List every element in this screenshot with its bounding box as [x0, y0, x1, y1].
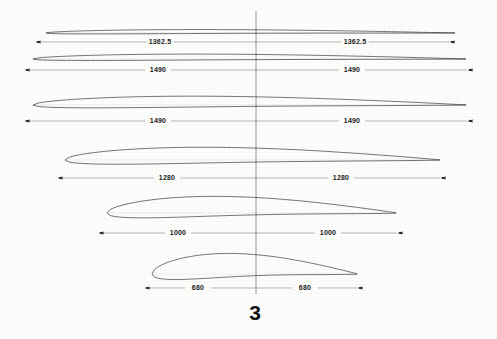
- airfoil-section-1-outline: [46, 30, 455, 34]
- section-2-dim-right-label: 1490: [342, 66, 362, 74]
- section-2-dim-left-terminator-point: [26, 69, 28, 71]
- section-3-dim-left-terminator-point: [26, 120, 28, 122]
- section-2-dim-left-label: 1490: [148, 66, 168, 74]
- section-2-dimension-row: [24, 69, 472, 72]
- airfoil-section-3-outline: [33, 96, 466, 108]
- section-1-dim-right-terminator-point: [451, 41, 453, 43]
- section-4-dim-right-terminator: [440, 177, 445, 180]
- figure-number: 3: [249, 301, 261, 325]
- section-1-dim-left-label: 1362.5: [147, 38, 174, 46]
- section-3-dimension-row: [24, 120, 472, 123]
- section-6-dim-left-terminator: [144, 287, 149, 290]
- airfoil-section-6-outline: [152, 253, 357, 279]
- section-4-dim-left-label: 1280: [157, 174, 177, 182]
- airfoil-section-6: [152, 253, 357, 279]
- section-5-dim-left-terminator-point: [100, 232, 102, 234]
- section-6-dim-right-terminator: [357, 287, 362, 290]
- section-5-dim-right-terminator-point: [399, 232, 401, 234]
- section-4-dim-right-label: 1280: [331, 174, 351, 182]
- section-5-dim-left-terminator: [98, 232, 103, 235]
- section-2-dim-right-terminator-point: [469, 69, 471, 71]
- section-4-dim-right-terminator-point: [442, 177, 444, 179]
- section-6-dim-left-terminator-point: [146, 287, 148, 289]
- technical-drawing-canvas: [0, 0, 497, 339]
- airfoil-section-4-outline: [65, 147, 440, 164]
- section-5-dim-left-label: 1000: [168, 229, 188, 237]
- section-6-dim-right-label: 680: [297, 284, 313, 292]
- section-6-dim-right-terminator-point: [359, 287, 361, 289]
- section-2-dim-right-terminator: [467, 69, 472, 72]
- section-3-dim-right-terminator: [467, 120, 472, 123]
- section-1-dim-left-terminator: [35, 41, 40, 44]
- airfoil-section-1: [46, 30, 455, 34]
- section-5-dim-right-label: 1000: [318, 229, 338, 237]
- section-3-dim-left-terminator: [24, 120, 29, 123]
- section-5-dim-right-terminator: [397, 232, 402, 235]
- airfoil-section-3: [33, 96, 466, 108]
- drawing-sheet: 1362.51362.51490149014901490128012801000…: [0, 0, 497, 339]
- section-2-dim-left-terminator: [24, 69, 29, 72]
- section-1-dim-right-label: 1362.5: [342, 38, 369, 46]
- section-1-dim-right-terminator: [449, 41, 454, 44]
- section-1-dim-left-terminator-point: [37, 41, 39, 43]
- section-6-dimension-row: [144, 287, 362, 290]
- airfoil-profiles-group: [33, 30, 466, 280]
- dimension-lines-group: [24, 41, 472, 290]
- airfoil-section-4: [65, 147, 440, 164]
- airfoil-section-5: [107, 196, 396, 218]
- section-4-dim-left-terminator-point: [59, 177, 61, 179]
- section-6-dim-left-label: 680: [190, 284, 206, 292]
- airfoil-section-5-outline: [107, 196, 396, 218]
- airfoil-section-2-outline: [33, 54, 466, 60]
- section-5-dimension-row: [98, 232, 402, 235]
- section-3-dim-right-label: 1490: [342, 117, 362, 125]
- section-3-dim-right-terminator-point: [469, 120, 471, 122]
- airfoil-section-2: [33, 54, 466, 60]
- section-4-dim-left-terminator: [57, 177, 62, 180]
- section-1-dimension-row: [35, 41, 454, 44]
- section-3-dim-left-label: 1490: [148, 117, 168, 125]
- section-4-dimension-row: [57, 177, 445, 180]
